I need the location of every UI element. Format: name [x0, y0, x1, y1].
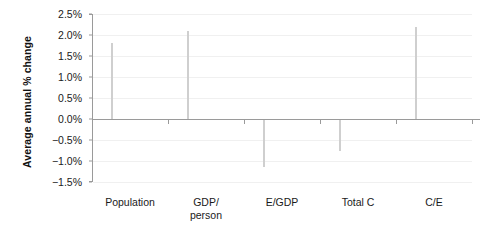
- x-axis-label: E/GDP: [244, 196, 320, 209]
- x-tick-mark: [396, 120, 397, 124]
- x-axis-label: Total C: [320, 196, 396, 209]
- x-tick-mark: [472, 120, 473, 124]
- y-tick-label: 0.5%: [58, 93, 82, 104]
- gridline: [93, 182, 472, 183]
- plot-area: [92, 14, 472, 182]
- bar: [187, 31, 189, 119]
- x-label-line: E/GDP: [244, 196, 320, 209]
- y-tick-label: 0.0%: [58, 114, 82, 125]
- bar: [339, 119, 341, 151]
- x-label-line: C/E: [396, 196, 472, 209]
- y-tick-label: 1.5%: [58, 51, 82, 62]
- y-tick-label: 2.5%: [58, 9, 82, 20]
- y-tick-label: 1.0%: [58, 72, 82, 83]
- y-axis-tick-labels: 2.5%2.0%1.5%1.0%0.5%0.0%−0.5%−1.0%−1.5%: [24, 14, 86, 182]
- bars-group: [92, 14, 472, 182]
- y-tick-label: −1.5%: [52, 177, 82, 188]
- x-label-line: GDP/: [168, 196, 244, 209]
- bar: [111, 43, 113, 119]
- zero-baseline: [92, 119, 480, 120]
- x-tick-mark: [168, 120, 169, 124]
- y-tick-label: −1.0%: [52, 156, 82, 167]
- bar: [263, 119, 265, 167]
- x-axis-label: C/E: [396, 196, 472, 209]
- x-label-line: Total C: [320, 196, 396, 209]
- x-axis-label: Population: [92, 196, 168, 209]
- y-tick-label: 2.0%: [58, 30, 82, 41]
- bar: [415, 27, 417, 119]
- x-label-line: Population: [92, 196, 168, 209]
- x-tick-mark: [320, 120, 321, 124]
- x-axis-label: GDP/person: [168, 196, 244, 222]
- x-axis-category-labels: PopulationGDP/personE/GDPTotal CC/E: [92, 196, 472, 240]
- y-tick-label: −0.5%: [52, 135, 82, 146]
- x-label-line: person: [168, 209, 244, 222]
- x-tick-mark: [244, 120, 245, 124]
